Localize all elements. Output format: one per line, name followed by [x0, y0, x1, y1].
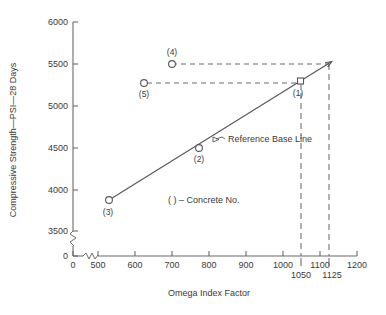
- annotation-label: Reference Base Line: [228, 134, 312, 144]
- y-tick-label-5500: 5500: [48, 59, 68, 69]
- x-tick-label-800: 800: [201, 260, 216, 270]
- chart-page: 6000 5500 5000 4500 4000 3500 0 Compress…: [0, 0, 386, 315]
- y-tick-label-0: 0: [63, 251, 68, 261]
- legend-label: ( ) – Concrete No.: [168, 195, 240, 205]
- x-tick-label-0: 0: [70, 260, 75, 270]
- data-point-4-label: (4): [167, 47, 178, 57]
- data-point-1-label: (1): [293, 88, 304, 98]
- x-tick-label-1200: 1200: [347, 260, 367, 270]
- y-axis-break-icon: [70, 231, 76, 246]
- annotation-arrowhead-icon: [213, 137, 219, 142]
- legend: ( ) – Concrete No.: [168, 195, 240, 205]
- compressive-strength-chart: 6000 5500 5000 4500 4000 3500 0 Compress…: [0, 0, 386, 315]
- x-tick-label-1000: 1000: [273, 260, 293, 270]
- y-tick-label-5000: 5000: [48, 101, 68, 111]
- data-points: (1) (2) (3) (4) (5): [103, 47, 304, 217]
- data-point-1-marker[interactable]: [298, 78, 304, 84]
- reference-base-line-annotation: Reference Base Line: [213, 134, 312, 144]
- x-axis: 0 500 600 700 800 900 1000 1100 1200 105…: [70, 251, 367, 298]
- y-tick-label-4000: 4000: [48, 185, 68, 195]
- data-point-3-marker[interactable]: [106, 197, 113, 204]
- x-tick-label-900: 900: [238, 260, 253, 270]
- y-axis-title: Compressive Strength—PSI—28 Days: [8, 62, 18, 217]
- y-tick-label-4500: 4500: [48, 143, 68, 153]
- x-axis-title: Omega Index Factor: [168, 288, 250, 298]
- x-secondary-label-1050: 1050: [291, 270, 311, 280]
- x-secondary-label-1125: 1125: [322, 270, 341, 280]
- x-tick-label-600: 600: [127, 260, 142, 270]
- data-point-3-label: (3): [103, 207, 114, 217]
- x-tick-label-700: 700: [164, 260, 179, 270]
- data-point-4-marker[interactable]: [169, 61, 176, 68]
- data-point-2-marker[interactable]: [196, 145, 203, 152]
- x-axis-break-icon: [83, 253, 98, 259]
- data-point-5-label: (5): [139, 89, 150, 99]
- x-tick-label-500: 500: [90, 260, 105, 270]
- y-axis: 6000 5500 5000 4500 4000 3500 0 Compress…: [8, 17, 78, 261]
- y-tick-label-3500: 3500: [48, 226, 68, 236]
- data-point-2-label: (2): [194, 154, 205, 164]
- x-tick-label-1100: 1100: [310, 260, 329, 270]
- data-point-5-marker[interactable]: [141, 80, 148, 87]
- y-tick-label-6000: 6000: [48, 17, 68, 27]
